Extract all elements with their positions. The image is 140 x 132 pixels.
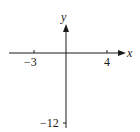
x-tick-label-neg3: −3 (24, 55, 37, 69)
y-axis-arrow-icon (63, 24, 69, 32)
x-axis-label: x (126, 46, 133, 60)
coordinate-plane: x y −3 4 −12 (0, 0, 140, 132)
x-axis-arrow-icon (118, 50, 126, 56)
y-tick-label-neg12: −12 (40, 116, 59, 130)
x-tick-label-4: 4 (104, 55, 110, 69)
y-axis-label: y (60, 10, 67, 24)
